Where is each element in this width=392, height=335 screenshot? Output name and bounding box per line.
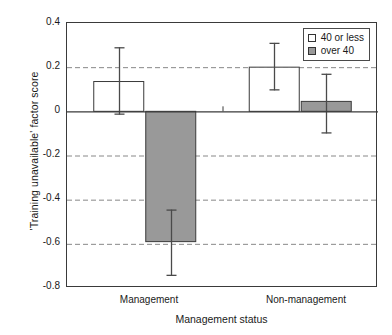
legend-swatch-open	[308, 34, 316, 42]
y-tick-5: -0.6	[30, 237, 60, 247]
y-tick-2: 0	[30, 105, 60, 115]
x-tick-non-management: Non-management	[226, 294, 386, 305]
plot-area: 40 or less over 40	[66, 22, 377, 287]
x-tick-management: Management	[69, 294, 229, 305]
legend-label-over-40: over 40	[321, 46, 354, 56]
bar-management-40-or-less[interactable]	[94, 82, 144, 112]
plot-canvas	[67, 23, 378, 288]
legend: 40 or less over 40	[303, 28, 370, 61]
y-axis-tick-labels: 0.4 0.2 0 -0.2 -0.4 -0.6 -0.8	[26, 0, 60, 335]
legend-item-40-or-less[interactable]: 40 or less	[308, 31, 364, 44]
y-tick-6: -0.8	[30, 281, 60, 291]
y-tick-4: -0.4	[30, 193, 60, 203]
y-tick-1: 0.2	[30, 61, 60, 71]
x-axis-title: Management status	[66, 313, 377, 325]
bar-chart-figure: 'Training unavailable' factor score 0.4 …	[0, 0, 392, 335]
y-tick-3: -0.2	[30, 149, 60, 159]
bar-management-over-40[interactable]	[146, 111, 196, 241]
legend-label-40-or-less: 40 or less	[321, 33, 364, 43]
legend-swatch-filled	[308, 47, 316, 55]
legend-item-over-40[interactable]: over 40	[308, 44, 364, 57]
y-tick-0: 0.4	[30, 17, 60, 27]
